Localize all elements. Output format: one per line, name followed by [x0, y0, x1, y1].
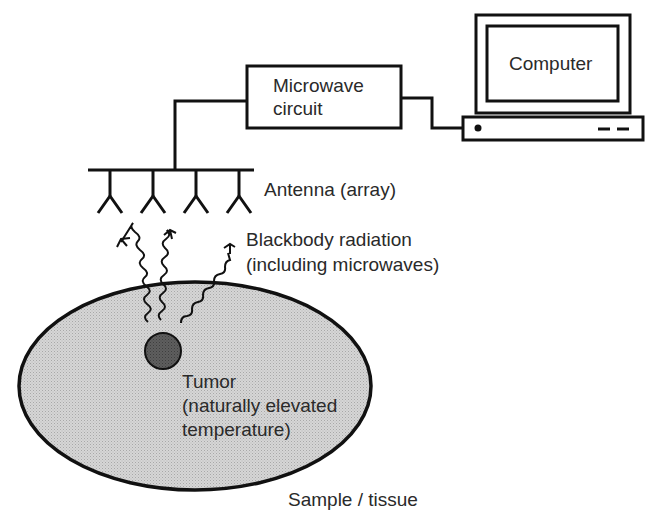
power-led-icon [475, 125, 482, 132]
antenna-4-icon [227, 170, 251, 213]
tumor-label-line3: temperature) [182, 418, 291, 441]
microwave-circuit-label-line1: Microwave [273, 74, 364, 97]
computer-label: Computer [509, 52, 592, 75]
radiation-label-line1: Blackbody radiation [246, 228, 412, 251]
tumor-circle [145, 333, 181, 369]
antenna-2-icon [141, 170, 165, 213]
antenna-label: Antenna (array) [264, 178, 396, 201]
arrowhead-2-icon [164, 230, 176, 239]
arrowhead-3-icon [224, 244, 235, 254]
radiation-label-line2: (including microwaves) [246, 253, 439, 276]
sample-label: Sample / tissue [288, 488, 418, 511]
connector-antenna-circuit [175, 101, 247, 170]
arrowhead-1-icon [117, 238, 130, 247]
tumor-label-line2: (naturally elevated [182, 394, 337, 417]
antenna-3-icon [184, 170, 208, 213]
antenna-1-icon [98, 170, 122, 213]
tumor-label-line1: Tumor [182, 370, 236, 393]
microwave-circuit-label-line2: circuit [273, 97, 323, 120]
computer-icon [463, 15, 643, 140]
computer-base [463, 117, 643, 140]
antenna-array [88, 170, 254, 213]
connector-circuit-computer [401, 98, 463, 128]
